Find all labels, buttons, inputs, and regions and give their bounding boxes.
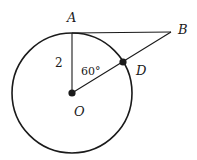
point-o-dot — [68, 89, 75, 96]
point-d-dot — [119, 58, 126, 65]
segment-ab — [72, 32, 171, 33]
label-a: A — [66, 10, 76, 25]
label-o: O — [74, 104, 85, 119]
label-d: D — [135, 63, 147, 78]
label-b: B — [177, 22, 188, 37]
angle-label: 60° — [81, 65, 101, 78]
radius-label: 2 — [55, 56, 63, 70]
geometry-diagram: A B D O 2 60° — [0, 0, 197, 160]
